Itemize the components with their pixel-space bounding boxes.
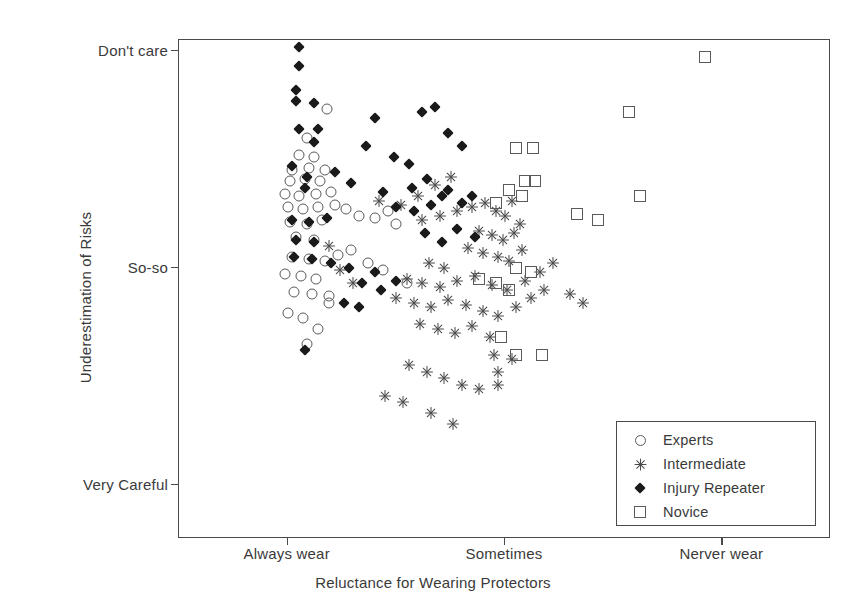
marker-injury-repeater	[369, 266, 380, 277]
marker-intermediate	[518, 274, 531, 287]
marker-novice	[510, 142, 522, 154]
marker-intermediate	[546, 257, 559, 270]
marker-novice	[536, 349, 548, 361]
marker-experts	[293, 149, 304, 160]
marker-injury-repeater	[354, 301, 365, 312]
marker-intermediate	[466, 201, 479, 214]
marker-injury-repeater	[378, 186, 389, 197]
marker-novice	[473, 273, 485, 285]
marker-experts	[310, 189, 321, 200]
marker-injury-repeater	[289, 251, 300, 262]
marker-experts	[291, 232, 302, 243]
marker-experts	[313, 202, 324, 213]
marker-injury-repeater	[293, 41, 304, 52]
marker-injury-repeater	[286, 214, 297, 225]
marker-intermediate	[634, 458, 647, 471]
marker-experts	[302, 219, 313, 230]
marker-intermediate	[472, 224, 485, 237]
marker-intermediate	[438, 261, 451, 274]
marker-experts	[332, 249, 343, 260]
marker-intermediate	[538, 283, 551, 296]
marker-intermediate	[577, 296, 590, 309]
marker-intermediate	[488, 348, 501, 361]
marker-injury-repeater	[291, 234, 302, 245]
marker-injury-repeater	[360, 141, 371, 152]
marker-novice	[516, 190, 528, 202]
marker-intermediate	[416, 276, 429, 289]
marker-intermediate	[438, 372, 451, 385]
marker-experts	[282, 308, 293, 319]
marker-injury-repeater	[321, 212, 332, 223]
marker-intermediate	[492, 250, 505, 263]
marker-injury-repeater	[388, 151, 399, 162]
marker-experts	[308, 234, 319, 245]
marker-experts	[304, 163, 315, 174]
marker-experts	[369, 212, 380, 223]
x-tick-mark	[504, 538, 505, 545]
marker-novice	[510, 262, 522, 274]
marker-experts	[300, 173, 311, 184]
marker-experts	[310, 273, 321, 284]
marker-experts	[341, 204, 352, 215]
marker-intermediate	[507, 227, 520, 240]
marker-injury-repeater	[306, 253, 317, 264]
marker-experts	[280, 269, 291, 280]
marker-intermediate	[412, 190, 425, 203]
marker-novice	[495, 331, 507, 343]
marker-novice	[490, 277, 502, 289]
marker-intermediate	[420, 365, 433, 378]
marker-experts	[287, 165, 298, 176]
marker-experts	[289, 286, 300, 297]
y-tick-label: So-so	[128, 258, 168, 275]
marker-intermediate	[564, 287, 577, 300]
marker-injury-repeater	[391, 275, 402, 286]
marker-injury-repeater	[330, 167, 341, 178]
marker-intermediate	[431, 322, 444, 335]
scatter-chart-figure: Always wearSometimesNerver wear Don't ca…	[0, 0, 866, 616]
marker-experts	[297, 204, 308, 215]
x-tick-label: Nerver wear	[679, 545, 763, 562]
marker-experts	[297, 312, 308, 323]
marker-injury-repeater	[293, 123, 304, 134]
marker-injury-repeater	[308, 236, 319, 247]
marker-intermediate	[433, 281, 446, 294]
marker-intermediate	[492, 309, 505, 322]
y-tick-mark	[171, 484, 178, 485]
marker-experts	[345, 245, 356, 256]
marker-experts	[306, 288, 317, 299]
marker-injury-repeater	[443, 128, 454, 139]
marker-experts	[304, 254, 315, 265]
marker-injury-repeater	[467, 191, 478, 202]
marker-experts	[635, 435, 646, 446]
marker-experts	[382, 206, 393, 217]
marker-injury-repeater	[312, 123, 323, 134]
marker-experts	[284, 176, 295, 187]
marker-novice	[503, 284, 515, 296]
marker-injury-repeater	[291, 95, 302, 106]
marker-injury-repeater	[345, 178, 356, 189]
marker-intermediate	[516, 244, 529, 257]
y-tick-label: Very Careful	[83, 475, 168, 492]
legend-label: Experts	[663, 432, 714, 448]
marker-intermediate	[503, 255, 516, 268]
legend-entry: Intermediate	[617, 452, 815, 476]
y-axis-title: Underestimation of Risks	[77, 148, 94, 448]
marker-intermediate	[451, 274, 464, 287]
marker-novice	[525, 266, 537, 278]
marker-intermediate	[444, 170, 457, 183]
marker-injury-repeater	[469, 232, 480, 243]
marker-intermediate	[403, 359, 416, 372]
marker-experts	[293, 191, 304, 202]
x-tick-label: Always wear	[243, 545, 329, 562]
marker-experts	[319, 165, 330, 176]
marker-intermediate	[346, 276, 359, 289]
marker-intermediate	[501, 283, 514, 296]
marker-intermediate	[425, 407, 438, 420]
marker-intermediate	[492, 365, 505, 378]
marker-novice	[503, 184, 515, 196]
legend-marker	[617, 476, 663, 500]
marker-injury-repeater	[421, 173, 432, 184]
marker-novice	[634, 190, 646, 202]
marker-injury-repeater	[452, 223, 463, 234]
marker-intermediate	[479, 196, 492, 209]
